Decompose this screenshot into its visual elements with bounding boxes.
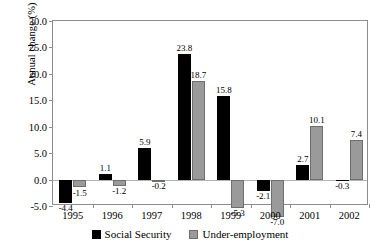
- legend-swatch-icon: [189, 230, 198, 239]
- legend-label: Social Security: [105, 228, 172, 240]
- y-tick-label: 10.0: [7, 121, 47, 132]
- x-tick: [290, 204, 291, 208]
- y-tick: [49, 180, 53, 181]
- x-axis-label: 1995: [62, 210, 83, 221]
- x-axis-label: 1999: [220, 210, 241, 221]
- y-tick: [49, 100, 53, 101]
- y-tick: [49, 21, 53, 22]
- x-tick: [93, 204, 94, 208]
- x-tick: [172, 204, 173, 208]
- bar: [192, 81, 205, 180]
- x-axis-label: 1996: [102, 210, 123, 221]
- x-axis-label: 2000: [260, 210, 281, 221]
- bar-value-label: 1.1: [100, 163, 111, 173]
- y-tick: [49, 206, 53, 207]
- bar: [231, 180, 244, 208]
- legend-label: Under-employment: [202, 228, 288, 240]
- y-tick-label: 25.0: [7, 42, 47, 53]
- legend-swatch-icon: [92, 230, 101, 239]
- y-tick-label: 30.0: [7, 16, 47, 27]
- bar: [350, 140, 363, 179]
- y-tick: [49, 74, 53, 75]
- bar: [217, 96, 230, 180]
- bar-value-label: -1.2: [112, 186, 126, 196]
- y-tick-label: 0.0: [7, 174, 47, 185]
- bar: [59, 180, 72, 203]
- chart-figure: Annual change (%) -5.00.05.010.015.020.0…: [0, 0, 380, 252]
- x-axis-label: 2002: [339, 210, 360, 221]
- chart-legend: Social SecurityUnder-employment: [0, 228, 380, 240]
- y-tick: [49, 153, 53, 154]
- y-tick: [49, 127, 53, 128]
- x-tick: [132, 204, 133, 208]
- bar: [178, 54, 191, 180]
- bar-value-label: -2.1: [256, 191, 270, 201]
- x-axis-label: 1997: [141, 210, 162, 221]
- y-tick: [49, 47, 53, 48]
- y-tick-label: 20.0: [7, 68, 47, 79]
- bar-value-label: 18.7: [190, 70, 206, 80]
- x-axis-label: 2001: [299, 210, 320, 221]
- bar: [99, 174, 112, 180]
- y-tick-label: 5.0: [7, 148, 47, 159]
- zero-baseline: [53, 180, 367, 181]
- x-tick: [330, 204, 331, 208]
- bar-value-label: 10.1: [309, 115, 325, 125]
- bar-value-label: 23.8: [176, 43, 192, 53]
- bar-value-label: 2.7: [297, 154, 308, 164]
- y-tick-label: -5.0: [7, 201, 47, 212]
- legend-item: Under-employment: [189, 228, 288, 240]
- y-tick-label: 15.0: [7, 95, 47, 106]
- bar: [73, 180, 86, 188]
- bar-value-label: 5.9: [139, 137, 150, 147]
- bar: [310, 126, 323, 179]
- x-axis-label: 1998: [181, 210, 202, 221]
- bar: [257, 180, 270, 191]
- x-tick: [211, 204, 212, 208]
- bar-value-label: -0.2: [152, 181, 166, 191]
- bar-value-label: -0.3: [335, 181, 349, 191]
- bar-value-label: -1.5: [73, 188, 87, 198]
- x-tick: [251, 204, 252, 208]
- bar-value-label: 15.8: [216, 85, 232, 95]
- bar: [138, 148, 151, 179]
- legend-item: Social Security: [92, 228, 172, 240]
- bar: [296, 165, 309, 179]
- x-tick: [369, 204, 370, 208]
- bar-value-label: 7.4: [351, 129, 362, 139]
- plot-area: -5.00.05.010.015.020.025.030.0 -4.4-1.51…: [52, 20, 368, 205]
